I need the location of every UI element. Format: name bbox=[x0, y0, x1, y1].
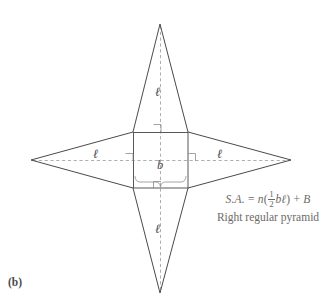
surface-area-formula: S.A. = n(12bℓ) + B bbox=[208, 190, 328, 209]
right-angle-mark-top bbox=[154, 125, 162, 133]
formula-close-paren: ) bbox=[286, 193, 290, 205]
right-face-triangle bbox=[188, 132, 291, 188]
base-edge-label: b bbox=[157, 158, 163, 173]
formula-base-area: B bbox=[303, 193, 310, 205]
pyramid-net-figure: ℓ ℓ ℓ ℓ b S.A. = n(12bℓ) + B Right regul… bbox=[0, 0, 330, 303]
formula-open-paren: ( bbox=[264, 193, 268, 205]
slant-label-bottom: ℓ bbox=[155, 222, 160, 237]
left-face-triangle bbox=[31, 132, 133, 188]
formula-equals: = bbox=[248, 193, 255, 205]
slant-label-left: ℓ bbox=[93, 147, 98, 162]
formula-block: S.A. = n(12bℓ) + B Right regular pyramid bbox=[208, 190, 328, 225]
formula-caption: Right regular pyramid bbox=[208, 210, 328, 225]
formula-fraction-denominator: 2 bbox=[268, 200, 275, 209]
formula-lhs: S.A. bbox=[226, 193, 245, 205]
panel-label: (b) bbox=[8, 276, 22, 288]
slant-label-right: ℓ bbox=[217, 147, 222, 162]
right-angle-mark-left bbox=[126, 154, 134, 162]
formula-product: bℓ bbox=[275, 193, 286, 205]
net-diagram-svg bbox=[0, 0, 330, 303]
slant-label-top: ℓ bbox=[155, 85, 160, 100]
right-angle-mark-right bbox=[188, 154, 196, 162]
formula-plus: + bbox=[293, 193, 300, 205]
formula-fraction: 12 bbox=[268, 190, 275, 209]
